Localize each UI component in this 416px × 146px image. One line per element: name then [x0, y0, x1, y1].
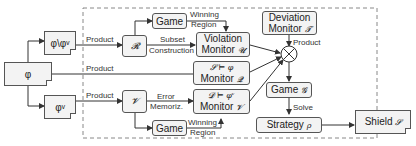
monitor-q: 𝓢 ⊨ φ Monitor 𝓠: [193, 61, 250, 85]
input-phi-minus-phiv: φ\φᵛ: [44, 31, 76, 55]
edge-label-solve: Solve: [293, 104, 313, 112]
game-top: Game: [152, 13, 187, 29]
product-operator: [281, 46, 297, 62]
monitor-v-symbol: 𝓥: [236, 103, 243, 112]
input-phi-v: φᵛ: [44, 95, 76, 119]
edge-label-subset-1: Subset: [160, 36, 185, 44]
monitor-q-symbol: 𝓠: [237, 75, 243, 84]
input-phi-minus-phiv-label: φ\φᵛ: [51, 38, 70, 49]
violation-monitor: Violation Monitor 𝓤: [196, 32, 250, 57]
monitor-q-line2: Monitor 𝓠: [200, 73, 242, 85]
edge-label-product-mid: Product: [86, 65, 114, 73]
deviation-monitor-symbol: 𝓣: [305, 25, 311, 34]
edge-label-winning-top-1: Winning: [190, 11, 219, 19]
edge-label-subset-2: Construction: [149, 47, 194, 55]
game-top-label: Game: [156, 16, 183, 27]
game-bottom: Game: [152, 120, 187, 136]
shield-text: Shield: [365, 116, 393, 127]
monitor-v-text: Monitor: [200, 101, 233, 112]
edge-label-winning-bottom-2: Region: [190, 129, 215, 137]
edge-label-winning-bottom-1: Winning: [188, 119, 217, 127]
edge-label-product-right: Product: [293, 39, 321, 47]
game-g-symbol: 𝓖: [301, 86, 307, 95]
deviation-monitor: Deviation Monitor 𝓣: [262, 11, 317, 35]
edge-label-error-2: Memoriz.: [150, 103, 183, 111]
strategy: Strategy ρ: [256, 117, 322, 133]
automaton-r: 𝓡: [122, 35, 147, 57]
edge-label-product-top: Product: [86, 36, 114, 44]
edge-label-error-1: Error: [157, 93, 175, 101]
input-phi-v-label: φᵛ: [55, 102, 65, 113]
input-phi: φ: [4, 62, 52, 86]
monitor-v: 𝓓 ⊨ φᵛ Monitor 𝓥: [193, 89, 250, 114]
deviation-monitor-line1: Deviation: [269, 12, 311, 23]
input-phi-label: φ: [25, 69, 31, 80]
strategy-text: Strategy: [267, 119, 304, 130]
violation-monitor-text: Monitor: [201, 44, 234, 55]
shield-symbol: 𝓢: [395, 118, 401, 127]
monitor-q-text: Monitor: [200, 73, 233, 84]
shield: Shield 𝓢: [355, 110, 411, 134]
deviation-monitor-text: Monitor: [268, 23, 301, 34]
monitor-v-line2: Monitor 𝓥: [200, 101, 243, 113]
game-g: Game 𝓖: [266, 82, 312, 98]
violation-monitor-line1: Violation: [204, 33, 242, 44]
automaton-v: 𝓥: [122, 90, 147, 113]
monitor-v-formula: 𝓓 ⊨ φᵛ: [208, 90, 235, 101]
shield-line: Shield 𝓢: [365, 116, 402, 128]
automaton-r-symbol: 𝓡: [131, 41, 139, 52]
deviation-monitor-line2: Monitor 𝓣: [268, 23, 310, 35]
automaton-v-symbol: 𝓥: [131, 96, 138, 107]
game-bottom-label: Game: [156, 123, 183, 134]
monitor-q-formula: 𝓢 ⊨ φ: [210, 62, 234, 73]
game-g-text: Game: [271, 84, 298, 95]
edge-label-winning-top-2: Region: [191, 21, 216, 29]
violation-monitor-line2: Monitor 𝓤: [201, 44, 244, 56]
strategy-line: Strategy ρ: [267, 119, 312, 131]
game-g-line: Game 𝓖: [271, 84, 307, 96]
violation-monitor-symbol: 𝓤: [238, 46, 245, 55]
strategy-symbol: ρ: [307, 121, 312, 130]
edge-label-product-bottom: Product: [86, 92, 114, 100]
